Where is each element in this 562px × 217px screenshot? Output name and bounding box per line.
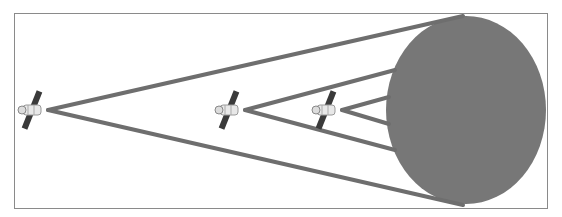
satellite-view-diagram [0,0,562,217]
planet [386,16,546,204]
